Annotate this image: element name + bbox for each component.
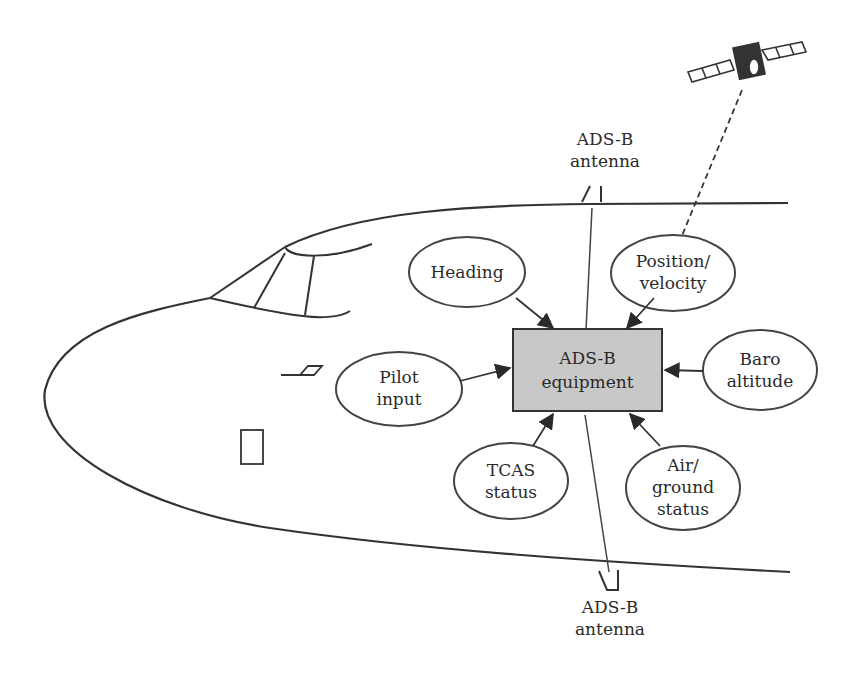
cockpit-windows — [210, 244, 372, 317]
heading-text: Heading — [417, 261, 517, 283]
ads-b-equipment-label: ADS-B equipment — [513, 346, 662, 394]
satellite-icon — [688, 42, 806, 82]
altitude-text: altitude — [710, 370, 810, 392]
top-antenna-label-line2: antenna — [560, 150, 650, 172]
bottom-antenna-icon — [599, 570, 618, 590]
position-velocity-label: Position/ velocity — [618, 250, 728, 294]
equipment-line2: equipment — [513, 370, 662, 394]
ads-b-diagram: ADS-B antenna ADS-B antenna Heading Posi… — [0, 0, 852, 679]
velocity-text: velocity — [618, 272, 728, 294]
pilot-text: Pilot — [349, 366, 449, 388]
air-ground-status-text: status — [633, 498, 733, 520]
input-text: input — [349, 388, 449, 410]
baro-altitude-label: Baro altitude — [710, 348, 810, 392]
tcas-text: TCAS — [461, 459, 561, 481]
equipment-line1: ADS-B — [513, 346, 662, 370]
air-ground-status-label: Air/ ground status — [633, 454, 733, 520]
bottom-antenna-label-line2: antenna — [565, 618, 655, 640]
fuselage-details — [241, 366, 322, 464]
top-antenna-icon — [582, 186, 601, 202]
ground-text: ground — [633, 476, 733, 498]
heading-label: Heading — [417, 261, 517, 283]
tcas-status-text: status — [461, 481, 561, 503]
air-text: Air/ — [633, 454, 733, 476]
top-antenna-label: ADS-B antenna — [560, 128, 650, 172]
bottom-antenna-label-line1: ADS-B — [565, 596, 655, 618]
bottom-antenna-label: ADS-B antenna — [565, 596, 655, 640]
tcas-status-label: TCAS status — [461, 459, 561, 503]
position-text: Position/ — [618, 250, 728, 272]
pilot-input-label: Pilot input — [349, 366, 449, 410]
top-antenna-label-line1: ADS-B — [560, 128, 650, 150]
baro-text: Baro — [710, 348, 810, 370]
